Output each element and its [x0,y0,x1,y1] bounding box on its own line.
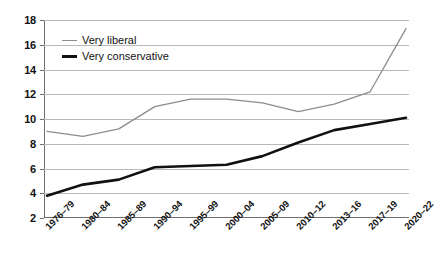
legend: Very liberal Very conservative [62,33,222,65]
y-tick-label: 6 [10,163,36,174]
legend-label-very-liberal: Very liberal [82,35,136,46]
y-tick-label: 2 [10,213,36,224]
y-axis: 24681012141618 [4,0,36,276]
legend-swatch-very-liberal [62,40,77,41]
y-tick-label: 8 [10,138,36,149]
y-tick-label: 16 [10,39,36,50]
legend-item-very-liberal: Very liberal [62,33,222,48]
y-tick-label: 18 [10,15,36,26]
legend-item-very-conservative: Very conservative [62,49,222,64]
legend-swatch-very-conservative [62,55,77,58]
x-axis: 1976–791980–841985–891990–941995–992000–… [44,218,409,276]
series-line-very-conservative [47,118,406,196]
legend-label-very-conservative: Very conservative [82,51,169,62]
y-tick-label: 12 [10,89,36,100]
y-tick-label: 14 [10,64,36,75]
y-tick-label: 4 [10,188,36,199]
y-tick-label: 10 [10,114,36,125]
